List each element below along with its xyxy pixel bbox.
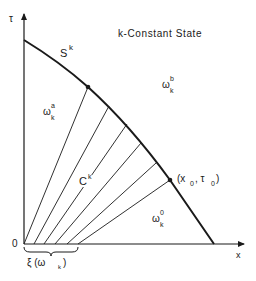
xi-brace: [24, 247, 78, 256]
region-b-base: ω: [162, 79, 170, 90]
region-0-sub: k: [160, 221, 164, 228]
point-label-close: ): [216, 173, 219, 184]
region-b-sub: k: [170, 87, 174, 94]
point-label-mid: , τ: [195, 173, 205, 184]
region-b-sup: b: [170, 75, 174, 82]
curve-label-s-sup: k: [69, 43, 74, 52]
point-label-open: (x: [177, 173, 185, 184]
region-0-sup: 0: [160, 209, 164, 216]
region-a-base: ω: [43, 106, 51, 117]
diagram-title: k-Constant State: [118, 28, 202, 39]
fan-label-c: C: [79, 175, 87, 187]
brace-label-close: ): [63, 257, 66, 268]
characteristics-diagram: τ x 0 k-Constant State S k ω a k ω b k ω…: [0, 0, 256, 281]
brace-label-sub: k: [58, 264, 62, 270]
region-a-sub: k: [51, 114, 55, 121]
point-label-sub2: 0: [211, 180, 215, 187]
tau-axis-label: τ: [9, 13, 13, 24]
region-a-sup: a: [51, 102, 55, 109]
shock-point-x0-tau0: [168, 178, 173, 183]
region-0-base: ω: [152, 213, 160, 224]
curve-label-s: S: [60, 47, 67, 59]
shock-curve-s-k: [24, 40, 214, 244]
origin-label: 0: [12, 238, 18, 249]
brace-label: ξ (ω: [27, 257, 46, 269]
point-label-sub1: 0: [190, 180, 194, 187]
shock-point-upper: [86, 85, 91, 90]
fan-label-c-sup: k: [88, 173, 92, 180]
x-axis-label: x: [236, 250, 241, 260]
